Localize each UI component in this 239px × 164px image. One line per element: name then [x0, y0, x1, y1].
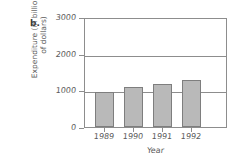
bar: [182, 80, 201, 127]
y-tick: [79, 128, 84, 129]
bar: [95, 92, 114, 127]
bar: [153, 84, 172, 127]
bar-chart-figure: b. Expenditure (in billions of dollars) …: [0, 0, 239, 164]
gridline: [85, 56, 226, 57]
y-tick-label: 2000: [40, 50, 77, 59]
y-tick-label: 3000: [40, 13, 77, 22]
x-tick-label: 1990: [116, 132, 149, 141]
y-axis-title-text: Expenditure (in billions of dollars): [30, 0, 49, 78]
x-axis-title: Year: [84, 146, 228, 155]
y-tick-label: 1000: [40, 86, 77, 95]
bar: [124, 87, 143, 127]
x-tick-label: 1989: [87, 132, 120, 141]
y-tick-label: 0: [40, 123, 77, 132]
x-tick-label: 1992: [174, 132, 207, 141]
plot-area: [84, 18, 227, 128]
x-tick-label: 1991: [145, 132, 178, 141]
